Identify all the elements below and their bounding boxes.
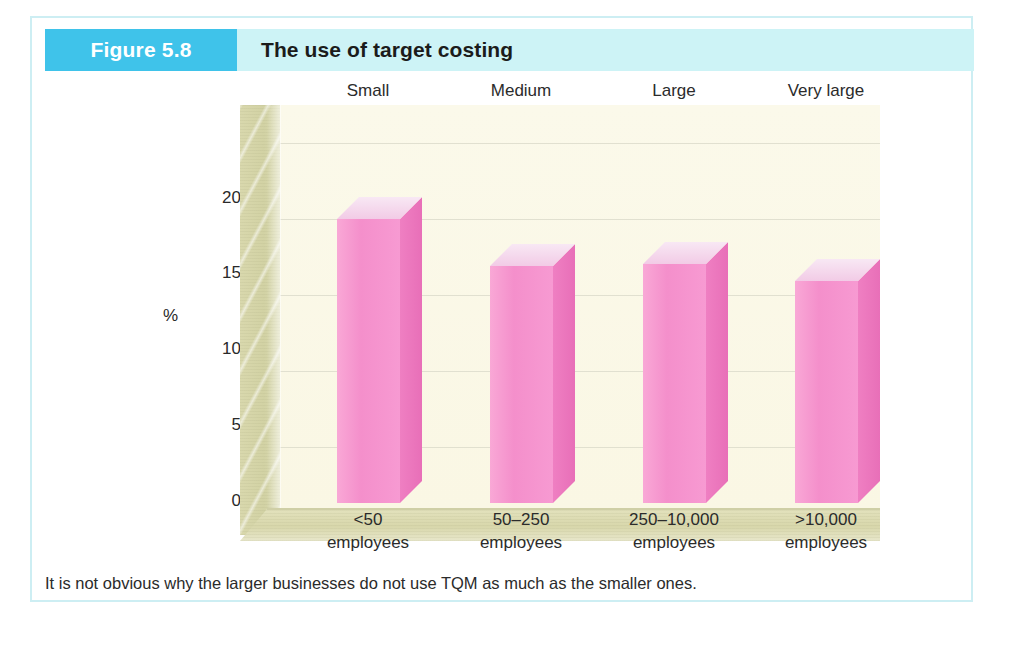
- bar-front-face: [795, 281, 858, 503]
- y-tick-15: 15: [193, 263, 241, 283]
- category-top-label-2: Medium: [446, 81, 596, 101]
- bar-front-face: [643, 264, 706, 503]
- category-bottom-label-2: 50–250 employees: [436, 509, 606, 555]
- bar-side-face: [553, 244, 575, 503]
- figure-caption: It is not obvious why the larger busines…: [45, 574, 965, 593]
- category-bottom-label-1: <50 employees: [283, 509, 453, 555]
- bar-column-4[interactable]: [795, 259, 880, 503]
- category-bottom-label-4: >10,000 employees: [741, 509, 911, 555]
- category-range-1: <50: [283, 509, 453, 532]
- figure-box: Figure 5.8 The use of target costing % 2…: [30, 16, 973, 602]
- bar-column-3[interactable]: [643, 242, 728, 503]
- category-range-4: >10,000: [741, 509, 911, 532]
- y-tick-0: 0: [193, 491, 241, 511]
- y-tick-20: 20: [193, 188, 241, 208]
- category-top-label-1: Small: [293, 81, 443, 101]
- category-bottom-label-3: 250–10,000 employees: [589, 509, 759, 555]
- category-range-3: 250–10,000: [589, 509, 759, 532]
- category-range-2: 50–250: [436, 509, 606, 532]
- bar-front-face: [490, 266, 553, 503]
- category-unit-2: employees: [436, 532, 606, 555]
- figure-header: Figure 5.8 The use of target costing: [45, 29, 974, 71]
- bar-column-1[interactable]: [337, 197, 422, 503]
- category-top-label-4: Very large: [751, 81, 901, 101]
- category-unit-4: employees: [741, 532, 911, 555]
- category-top-label-3: Large: [599, 81, 749, 101]
- left-wall-bevel: [267, 105, 281, 535]
- bar-side-face: [706, 242, 728, 503]
- y-tick-10: 10: [193, 339, 241, 359]
- figure-number-badge: Figure 5.8: [45, 29, 237, 71]
- category-unit-1: employees: [283, 532, 453, 555]
- gridline-20: [267, 143, 880, 144]
- y-tick-5: 5: [193, 415, 241, 435]
- bar-side-face: [858, 259, 880, 503]
- bar-front-face: [337, 219, 400, 503]
- bar-column-2[interactable]: [490, 244, 575, 503]
- chart-3d-scene: [240, 105, 880, 535]
- category-unit-3: employees: [589, 532, 759, 555]
- figure-page: Figure 5.8 The use of target costing % 2…: [0, 0, 1009, 650]
- y-axis-title: %: [163, 306, 178, 326]
- figure-title: The use of target costing: [237, 29, 974, 71]
- chart-area: % 20 15 10 5 0: [45, 81, 974, 551]
- bar-side-face: [400, 197, 422, 503]
